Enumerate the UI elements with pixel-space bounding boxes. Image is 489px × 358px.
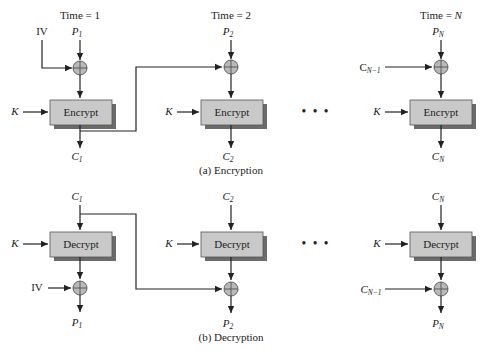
plaintext-label: P1 <box>71 25 82 39</box>
ciphertext-label: C2 <box>222 150 233 164</box>
key-label: K <box>164 237 173 249</box>
xor-icon <box>434 282 448 296</box>
plaintext-label: P2 <box>222 317 234 331</box>
encrypt-box-label: Encrypt <box>215 106 250 118</box>
iv-label: IV <box>31 281 43 293</box>
decrypt-box-label: Decrypt <box>63 238 98 250</box>
encrypt-box-label: Encrypt <box>424 106 459 118</box>
key-label: K <box>164 105 173 117</box>
encryption-caption: (a) Encryption <box>199 164 263 177</box>
xor-icon <box>224 282 238 296</box>
decryption-caption: (b) Decryption <box>198 331 264 344</box>
decrypt-box-label: Decrypt <box>214 238 249 250</box>
time-label: Time = 1 <box>60 9 100 21</box>
xor-icon <box>73 61 87 75</box>
decrypt-box-label: Decrypt <box>423 238 458 250</box>
time-label: Time = N <box>420 9 463 21</box>
plaintext-label: PN <box>431 317 445 331</box>
cbc-mode-diagram: Time = 1 P1 IV K Encrypt C1 Time = 2 P2 … <box>0 0 489 358</box>
plaintext-label: PN <box>431 25 445 39</box>
ciphertext-label: C2 <box>222 190 233 204</box>
encrypt-box-label: Encrypt <box>64 106 99 118</box>
plaintext-label: P1 <box>71 316 82 330</box>
decrypt-stage-n: CN K Decrypt CN−1 PN <box>360 190 476 331</box>
ciphertext-label: C1 <box>71 190 82 204</box>
ciphertext-label: C1 <box>71 150 82 164</box>
ellipsis: • • • <box>302 236 331 250</box>
decrypt-stage-1: C1 K Decrypt IV P1 <box>10 190 222 330</box>
chain-input-label: CN−1 <box>360 283 381 297</box>
key-label: K <box>372 105 381 117</box>
encrypt-stage-2: Time = 2 P2 K Encrypt C2 <box>164 9 267 164</box>
key-label: K <box>10 237 19 249</box>
key-label: K <box>10 105 19 117</box>
decrypt-stage-2: C2 K Decrypt P2 <box>164 190 267 331</box>
encrypt-stage-1: Time = 1 P1 IV K Encrypt C1 <box>10 9 222 164</box>
xor-icon <box>434 60 448 74</box>
xor-icon <box>73 281 87 295</box>
chain-input-label: CN−1 <box>359 61 380 75</box>
time-label: Time = 2 <box>211 9 251 21</box>
encrypt-stage-n: Time = N PN CN−1 K Encrypt CN <box>359 9 476 164</box>
ciphertext-label: CN <box>432 150 445 164</box>
ellipsis: • • • <box>302 104 331 118</box>
xor-icon <box>224 60 238 74</box>
plaintext-label: P2 <box>222 25 234 39</box>
iv-label: IV <box>36 25 48 37</box>
key-label: K <box>372 237 381 249</box>
ciphertext-label: CN <box>432 190 445 204</box>
